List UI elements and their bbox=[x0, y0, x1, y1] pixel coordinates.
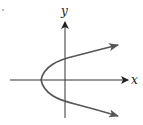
x-axis-label: x bbox=[131, 73, 138, 87]
parabola-lower-branch bbox=[41, 80, 118, 116]
parabola-upper-branch bbox=[41, 45, 118, 80]
stray-dot bbox=[2, 9, 4, 11]
y-axis-label: y bbox=[60, 4, 68, 18]
parabola-diagram: y x bbox=[0, 0, 143, 125]
